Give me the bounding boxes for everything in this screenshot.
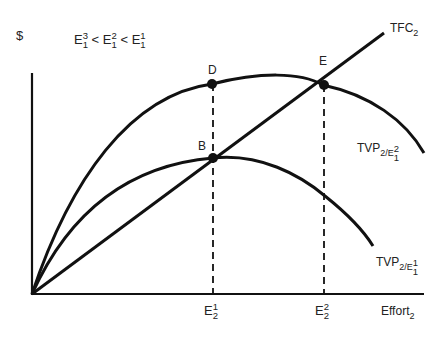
tvp-upper-label: TVP2/E21 <box>357 140 399 158</box>
x-tick-e22: E22 <box>315 303 329 321</box>
ineq-term-2: E21 <box>103 32 117 47</box>
ineq-op-1: < <box>92 32 100 47</box>
ineq-term-1: E31 <box>74 32 88 47</box>
diagram-canvas <box>0 0 442 347</box>
point-b <box>208 153 218 163</box>
point-d-label: D <box>208 64 217 76</box>
tvp-upper-curve <box>32 75 424 294</box>
point-d <box>207 79 217 89</box>
point-e <box>319 80 329 90</box>
point-b-label: B <box>198 140 206 152</box>
x-tick-e21: E12 <box>204 303 218 321</box>
tfc-label: TFC2 <box>390 22 418 34</box>
tvp-lower-label: TVP2/E11 <box>376 254 418 272</box>
tvp-lower-curve <box>32 157 373 294</box>
ineq-op-2: < <box>120 32 128 47</box>
y-axis-label: $ <box>16 29 23 42</box>
ineq-term-3: E11 <box>132 32 146 47</box>
effort-inequality: E31 < E21 < E11 <box>74 32 146 50</box>
point-e-label: E <box>319 55 327 67</box>
x-axis-label: Effort2 <box>381 305 414 317</box>
